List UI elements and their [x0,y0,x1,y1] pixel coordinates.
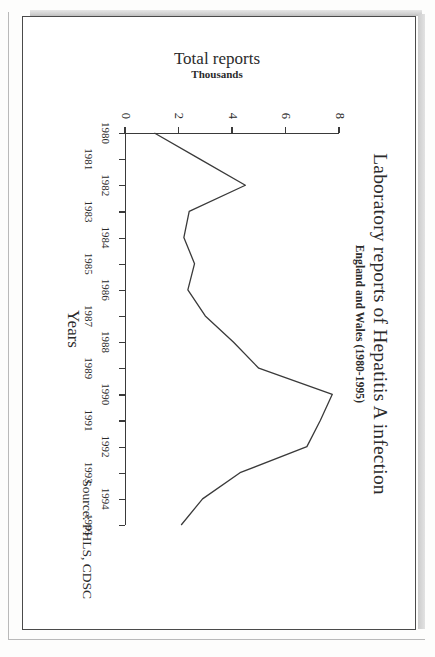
x-label-1989: 1989 [83,357,95,379]
x-label-1990: 1990 [100,383,112,405]
y-label-6: 6 [278,113,293,119]
y-axis-units: Thousands [97,68,337,80]
plot-area: 1980198119821983198419851986198719881989… [125,133,339,525]
x-label-1994: 1994 [100,488,112,510]
x-label-1981: 1981 [83,148,95,170]
data-series-line [125,133,339,525]
x-label-1985: 1985 [83,253,95,275]
x-label-1980: 1980 [100,122,112,144]
y-axis-title: Total reports [97,50,337,67]
x-label-1982: 1982 [100,174,112,196]
y-label-4: 4 [225,113,240,119]
x-label-1987: 1987 [83,305,95,327]
page-shadow-right [418,14,425,629]
chart-title: Laboratory reports of Hepatitis A infect… [369,41,391,607]
x-label-1988: 1988 [100,331,112,353]
source-caption: Source: PHLS, CDSC [79,479,95,599]
x-label-1984: 1984 [100,227,112,249]
x-axis-title: Years [63,133,83,525]
x-label-1986: 1986 [100,279,112,301]
line-chart: Laboratory reports of Hepatitis A infect… [45,41,395,607]
scanned-page: Laboratory reports of Hepatitis A infect… [0,0,435,657]
y-label-0: 0 [118,113,133,119]
chart-subtitle: England and Wales (1980-1995) [354,41,366,607]
figure-card: Laboratory reports of Hepatitis A infect… [22,16,416,630]
x-label-1991: 1991 [83,409,95,431]
x-label-1992: 1992 [100,436,112,458]
y-label-2: 2 [171,113,186,119]
y-label-8: 8 [332,113,347,119]
page-outer-rule-left [8,12,9,640]
x-label-1983: 1983 [83,200,95,222]
x-tick-1995 [119,525,125,526]
y-axis-title-group: Total reports Thousands [97,50,337,80]
rotated-chart-container: Laboratory reports of Hepatitis A infect… [45,41,395,607]
page-outer-rule-bottom [8,639,425,640]
